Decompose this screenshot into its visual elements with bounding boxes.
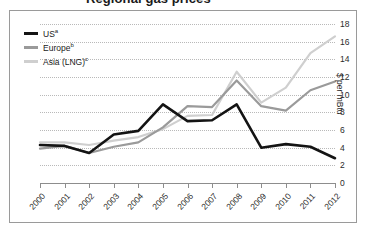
legend-label-asia-lng: Asia (LNG)c (43, 56, 88, 67)
legend-swatch-us (24, 32, 38, 35)
chart-title: Regional gas prices (86, 0, 211, 6)
legend-swatch-asia-lng (24, 60, 38, 63)
chart-screenshot: Regional gas prices 024681012141618 $ pe… (0, 0, 367, 233)
legend-item-asia-lng[interactable]: Asia (LNG)c (24, 55, 88, 68)
legend-footnote-us: a (55, 28, 58, 34)
x-tick-mark-2002 (89, 183, 90, 188)
y-tick-label-4: 4 (340, 143, 345, 153)
y-tick-label-16: 16 (340, 37, 349, 47)
chart-frame: 024681012141618 $ per mBtu 2000200120022… (9, 10, 357, 223)
x-tick-mark-2012 (335, 183, 336, 188)
legend-label-europe: Europeb (43, 42, 74, 53)
x-tick-mark-2008 (237, 183, 238, 188)
y-tick-label-14: 14 (340, 54, 349, 64)
x-tick-mark-2011 (310, 183, 311, 188)
legend-footnote-europe: b (70, 42, 73, 48)
x-tick-mark-2010 (286, 183, 287, 188)
x-tick-mark-2001 (65, 183, 66, 188)
chart-legend: USaEuropebAsia (LNG)c (24, 27, 88, 69)
legend-label-us: USa (43, 28, 58, 39)
x-tick-mark-2009 (261, 183, 262, 188)
y-axis-label: $ per mBtu (335, 73, 345, 115)
x-tick-mark-2000 (40, 183, 41, 188)
x-tick-mark-2005 (163, 183, 164, 188)
legend-swatch-europe (24, 46, 38, 49)
y-tick-label-18: 18 (340, 19, 349, 29)
x-tick-mark-2004 (138, 183, 139, 188)
x-tick-mark-2006 (188, 183, 189, 188)
legend-item-europe[interactable]: Europeb (24, 41, 88, 54)
legend-footnote-asia-lng: c (85, 56, 88, 62)
series-line-us (40, 104, 335, 158)
x-tick-mark-2003 (114, 183, 115, 188)
y-tick-label-6: 6 (340, 125, 345, 135)
chart-title-clip: Regional gas prices (0, 0, 367, 10)
y-tick-label-2: 2 (340, 160, 345, 170)
legend-item-us[interactable]: USa (24, 27, 88, 40)
y-tick-label-0: 0 (340, 178, 345, 188)
x-tick-mark-2007 (212, 183, 213, 188)
